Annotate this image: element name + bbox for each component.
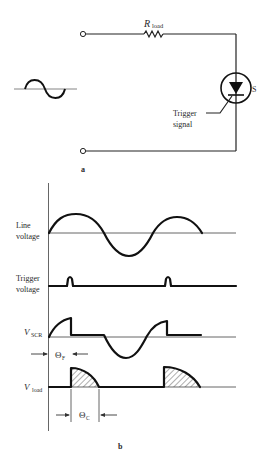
resistor-label-sub: load [152,22,164,29]
resistor-icon [144,31,163,37]
waveform-diagram: Line voltage Trigger voltage V SCR Θ F [16,183,236,451]
bottom-terminal [80,148,85,153]
circuit-diagram: R load S Trigger signal a [14,18,256,174]
line-voltage-label-1: Line [16,221,31,230]
theta-c-label-sub: C [86,415,90,421]
scr-icon [221,73,251,103]
figure-b-label: b [118,442,123,451]
trigger-signal-label-2: signal [173,120,193,129]
theta-f-label-sub: F [62,355,65,361]
trace-line-voltage [49,214,236,256]
ac-source-sine-icon [14,80,77,98]
trigger-voltage-label-1: Trigger [16,274,40,283]
vscr-label: V [24,327,31,337]
theta-c-label: Θ [79,410,86,420]
vload-label: V [24,382,31,392]
trigger-signal-label-1: Trigger [173,109,197,118]
scr-label: S [252,85,256,94]
top-terminal [80,31,85,36]
scr-circuit-figure: R load S Trigger signal a [0,0,257,452]
line-voltage-label-2: voltage [16,232,40,241]
trace-trigger-voltage [49,277,236,286]
trigger-voltage-label-2: voltage [16,285,40,294]
theta-f-label: Θ [55,350,62,360]
trace-vscr [49,318,236,358]
vload-label-sub: load [32,387,42,393]
figure-a-label: a [81,165,85,174]
resistor-label: R [143,18,150,29]
vscr-label-sub: SCR [31,332,42,338]
trace-vload [49,367,236,387]
